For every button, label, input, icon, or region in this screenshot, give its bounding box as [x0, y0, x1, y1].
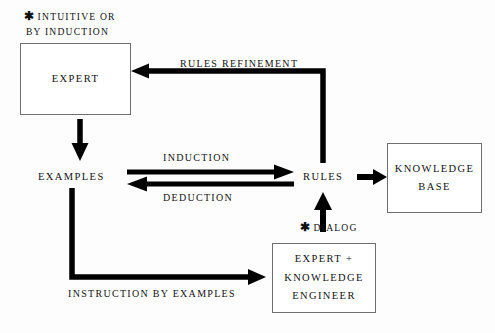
knowledge-base-line-2: BASE [418, 178, 450, 196]
examples-node[interactable]: EXAMPLES [38, 170, 105, 184]
expert-box-label: EXPERT [52, 70, 99, 88]
intuitive-or-by-induction-note: ✱ INTUITIVE OR BY INDUCTION [24, 8, 116, 39]
asterisk-icon: ✱ [24, 9, 34, 23]
expert-knowledge-engineer-box[interactable]: EXPERT + KNOWLEDGE ENGINEER [272, 243, 376, 313]
induction-label: INDUCTION [163, 152, 230, 163]
deduction-arrow [127, 177, 294, 192]
dialog-note-label: DIALOG [314, 222, 358, 233]
rules-node-label: RULES [303, 171, 343, 182]
examples-node-label: EXAMPLES [38, 171, 105, 182]
expert-to-examples-arrow [72, 119, 89, 161]
intuitive-note-line-2: BY INDUCTION [26, 26, 109, 37]
instruction-by-examples-label: INSTRUCTION BY EXAMPLES [68, 288, 236, 299]
rules-refinement-arrow [131, 64, 323, 164]
expert-box[interactable]: EXPERT [20, 43, 131, 115]
knowledge-base-line-1: KNOWLEDGE [395, 160, 475, 178]
expert-knowledge-engineer-line-1: EXPERT + [295, 250, 354, 268]
expert-knowledge-engineer-line-2: KNOWLEDGE [284, 269, 364, 287]
rules-node[interactable]: RULES [303, 170, 343, 184]
intuitive-note-line-1: INTUITIVE OR [38, 11, 116, 22]
expert-knowledge-engineer-line-3: ENGINEER [292, 287, 356, 305]
deduction-label: DEDUCTION [163, 192, 233, 203]
asterisk-icon: ✱ [300, 220, 310, 234]
induction-arrow [127, 165, 294, 180]
rules-to-knowledge-base-arrow [357, 169, 387, 185]
knowledge-base-box[interactable]: KNOWLEDGE BASE [387, 143, 482, 213]
expert-system-diagram: EXPERT EXAMPLES RULES KNOWLEDGE BASE EXP… [0, 0, 495, 333]
dialog-note: ✱ DIALOG [300, 219, 358, 236]
rules-refinement-label: RULES REFINEMENT [180, 58, 298, 69]
